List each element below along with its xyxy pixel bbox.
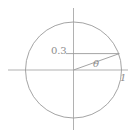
unit-circle-diagram: 0.3 θ 1 bbox=[0, 0, 134, 134]
height-label: 0.3 bbox=[51, 46, 66, 56]
diagram-canvas bbox=[0, 0, 134, 134]
angle-theta-label: θ bbox=[93, 59, 99, 69]
radius-one-label: 1 bbox=[120, 73, 126, 83]
